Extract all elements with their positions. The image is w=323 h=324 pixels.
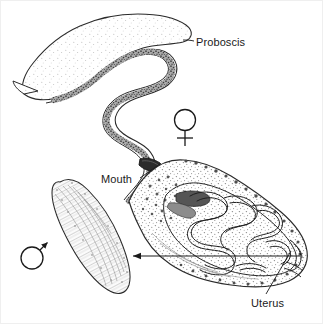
female-worm-specimen (13, 14, 307, 287)
figure-canvas: Proboscis Mouth Uterus (0, 0, 323, 324)
worm-illustration (0, 0, 323, 324)
label-proboscis: Proboscis (196, 36, 245, 48)
proboscis-outer-sheath (22, 14, 191, 171)
male-worm-specimen (52, 180, 130, 294)
male-symbol (21, 243, 48, 270)
label-uterus: Uterus (251, 297, 284, 309)
male-body-outline (52, 180, 130, 294)
female-body-trunk (129, 159, 307, 287)
label-mouth: Mouth (101, 173, 132, 185)
female-symbol (175, 110, 196, 147)
